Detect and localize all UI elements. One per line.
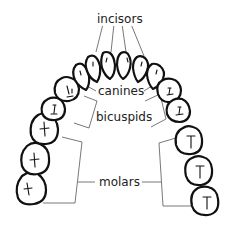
label-molars: molars — [99, 175, 140, 189]
molar-tooth — [185, 156, 212, 185]
label-incisors: incisors — [97, 12, 143, 26]
incisors-leaders — [96, 24, 144, 56]
right-teeth — [117, 52, 218, 215]
incisor-tooth — [117, 52, 131, 79]
label-bicuspids: bicuspids — [96, 110, 152, 124]
incisor-tooth — [101, 52, 115, 79]
bicuspid-tooth — [167, 99, 190, 122]
molars-leaders — [43, 137, 196, 206]
label-canines: canines — [98, 84, 144, 98]
molar-tooth — [191, 187, 218, 215]
molar-tooth — [21, 143, 49, 174]
molar-tooth — [176, 126, 202, 154]
incisor-tooth — [133, 56, 148, 82]
